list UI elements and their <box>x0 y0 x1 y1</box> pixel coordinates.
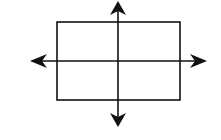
rectangle-symmetry-diagram <box>0 0 221 140</box>
